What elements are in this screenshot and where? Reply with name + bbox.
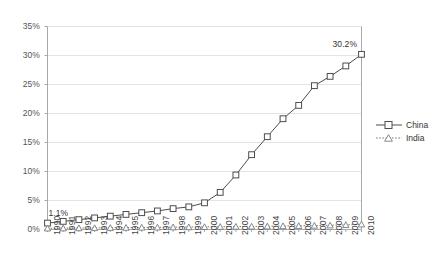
legend-item-india[interactable]: India <box>376 131 428 144</box>
y-axis-tick-label: 0% <box>2 224 40 234</box>
y-axis-tick-label: 20% <box>2 108 40 118</box>
legend-key-china-icon <box>376 120 402 130</box>
y-axis-tick-label: 5% <box>2 195 40 205</box>
x-axis-tick-label: 1998 <box>177 215 187 234</box>
x-axis-tick-label: 1996 <box>146 215 156 234</box>
y-axis-tick-label: 25% <box>2 79 40 89</box>
x-axis-tick-label: 1997 <box>161 215 171 234</box>
x-axis-tick-label: 2010 <box>366 215 376 234</box>
data-point-annotation: 30.2% <box>333 39 358 49</box>
legend-label-china: China <box>406 120 428 130</box>
x-axis-tick-label: 1995 <box>130 215 140 234</box>
y-axis-tick-label: 35% <box>2 21 40 31</box>
x-axis-tick-label: 1991 <box>67 215 77 234</box>
x-axis-tick-label: 2005 <box>287 215 297 234</box>
legend-item-china[interactable]: China <box>376 118 428 131</box>
x-axis-tick-label: 1993 <box>99 215 109 234</box>
legend-key-india-icon <box>376 133 402 143</box>
x-axis-tick-label: 2006 <box>303 215 313 234</box>
x-axis-tick-label: 1999 <box>193 215 203 234</box>
x-axis-tick-label: 2001 <box>224 215 234 234</box>
x-axis-tick-label: 2002 <box>240 215 250 234</box>
x-axis-tick-label: 2009 <box>350 215 360 234</box>
x-axis-tick-label: 2004 <box>271 215 281 234</box>
x-axis-tick-label: 2008 <box>334 215 344 234</box>
chart-legend: China India <box>376 118 428 144</box>
x-axis-tick-label: 1994 <box>114 215 124 234</box>
chart-container: 35%30%25%20%15%10%5%0% 19901991199219931… <box>0 0 444 273</box>
y-axis-tick-label: 30% <box>2 50 40 60</box>
x-axis-tick-label: 2000 <box>209 215 219 234</box>
x-axis-tick-label: 2007 <box>318 215 328 234</box>
y-axis-tick-label: 15% <box>2 137 40 147</box>
x-axis-tick-label: 1992 <box>83 215 93 234</box>
legend-label-india: India <box>406 133 424 143</box>
y-axis-tick-label: 10% <box>2 166 40 176</box>
data-point-annotation: 1.1% <box>49 208 69 218</box>
x-axis-tick-label: 2003 <box>256 215 266 234</box>
